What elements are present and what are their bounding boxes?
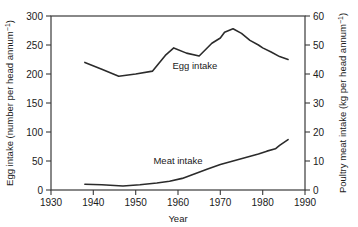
x-tick-label: 1950 — [125, 197, 148, 208]
x-tick-label: 1960 — [167, 197, 190, 208]
left-tick-label: 100 — [26, 127, 43, 138]
x-tick-label: 1990 — [294, 197, 317, 208]
right-axis-ticklabels: 0 10 20 30 40 50 60 — [313, 11, 325, 196]
chart-figure: 0 50 100 150 200 250 300 0 10 20 30 40 5… — [0, 0, 358, 227]
right-axis-title-text: Poultry meat intake (kg per head annum — [337, 24, 348, 193]
right-tick-label: 30 — [313, 98, 325, 109]
left-axis-title-text: Egg intake (number per head annum — [4, 31, 15, 186]
egg-intake-annotation: Egg intake — [170, 59, 219, 72]
meat-intake-annotation: Meat intake — [151, 154, 204, 167]
right-tick-label: 50 — [313, 40, 325, 51]
x-tick-label: 1980 — [252, 197, 275, 208]
line-chart: 0 50 100 150 200 250 300 0 10 20 30 40 5… — [0, 0, 358, 227]
left-axis-title-tail: ) — [4, 20, 15, 23]
left-tick-label: 300 — [26, 11, 43, 22]
left-tick-label: 250 — [26, 40, 43, 51]
left-tick-label: 150 — [26, 98, 43, 109]
x-axis-ticklabels: 1930 1940 1950 1960 1970 1980 1990 — [40, 197, 317, 208]
egg-intake-label: Egg intake — [172, 60, 217, 71]
x-tick-label: 1930 — [40, 197, 63, 208]
x-axis-ticks — [51, 190, 305, 195]
right-tick-label: 0 — [313, 185, 319, 196]
left-axis-ticks — [46, 16, 51, 190]
right-axis-title-tail: ) — [337, 13, 348, 16]
x-axis-title: Year — [168, 213, 187, 224]
left-axis-ticklabels: 0 50 100 150 200 250 300 — [26, 11, 43, 196]
right-tick-label: 40 — [313, 69, 325, 80]
left-axis-title: Egg intake (number per head annum−1) — [4, 20, 16, 186]
meat-intake-label: Meat intake — [153, 155, 202, 166]
right-tick-label: 60 — [313, 11, 325, 22]
left-tick-label: 50 — [32, 156, 44, 167]
x-tick-label: 1970 — [209, 197, 232, 208]
x-tick-label: 1940 — [82, 197, 105, 208]
left-tick-label: 200 — [26, 69, 43, 80]
left-axis-title-superscript: −1 — [4, 23, 11, 31]
right-tick-label: 20 — [313, 127, 325, 138]
right-axis-title: Poultry meat intake (kg per head annum−1… — [337, 13, 349, 193]
left-tick-label: 0 — [37, 185, 43, 196]
right-axis-ticks — [305, 16, 310, 190]
right-tick-label: 10 — [313, 156, 325, 167]
right-axis-title-superscript: −1 — [337, 16, 344, 24]
